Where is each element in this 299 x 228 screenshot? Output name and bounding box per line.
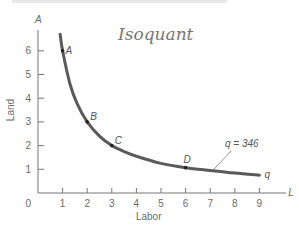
point-label-c: C	[115, 135, 123, 146]
point-marker-b	[85, 120, 89, 124]
y-axis-symbol: A	[34, 14, 42, 25]
x-tick-label: 4	[134, 198, 140, 209]
y-axis-label: Land	[5, 99, 16, 121]
y-tick-label: 6	[25, 45, 31, 56]
axes	[38, 30, 286, 193]
y-tick-label: 5	[25, 69, 31, 80]
isoquant-curve	[60, 34, 259, 175]
isoquant-chart: Isoquant 123456789123456 ABCD A L Labor …	[0, 0, 299, 228]
x-tick-label: 9	[257, 198, 263, 209]
curve-label-leader-line	[214, 151, 231, 169]
handwritten-annotation: Isoquant	[117, 24, 194, 44]
point-marker-d	[184, 166, 188, 170]
point-label-b: B	[90, 111, 97, 122]
point-label-d: D	[184, 154, 191, 165]
series-layer	[60, 34, 259, 175]
x-tick-label: 5	[158, 198, 164, 209]
x-tick-label: 8	[232, 198, 238, 209]
x-axis-symbol: L	[288, 187, 294, 198]
x-tick-label: 3	[109, 198, 115, 209]
curve-end-label: q	[264, 169, 270, 180]
x-tick-label: 6	[183, 198, 189, 209]
cut-off-text-line	[12, 0, 227, 3]
x-tick-label: 2	[84, 198, 90, 209]
curve-label: q = 346	[225, 138, 259, 149]
y-tick-label: 4	[25, 93, 31, 104]
ticks: 123456789123456	[25, 45, 262, 209]
x-axis-label: Labor	[136, 211, 162, 222]
y-tick-label: 3	[25, 116, 31, 127]
point-marker-c	[110, 144, 114, 148]
point-marker-a	[61, 49, 65, 53]
y-tick-label: 2	[25, 140, 31, 151]
point-label-a: A	[65, 45, 73, 56]
x-tick-label: 1	[60, 198, 66, 209]
origin-label: 0	[25, 198, 31, 209]
y-tick-label: 1	[25, 164, 31, 175]
x-tick-label: 7	[207, 198, 213, 209]
